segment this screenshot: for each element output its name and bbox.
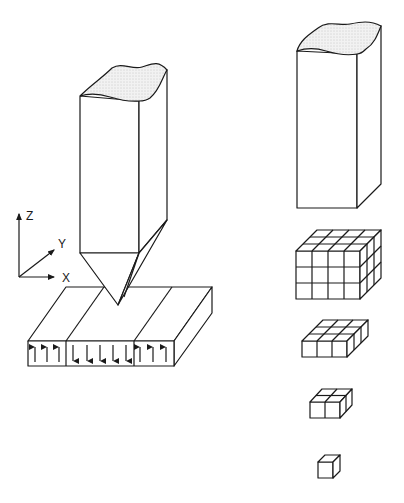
x-axis-label: X — [62, 271, 70, 285]
block-3x3x1-front — [302, 341, 347, 357]
probe-front-face — [80, 96, 139, 253]
z-axis-label: Z — [26, 209, 33, 223]
block-1x1x1 — [318, 455, 340, 478]
coordinate-axes: Z Y X — [19, 209, 70, 285]
slab-front-face — [28, 341, 174, 366]
probe-pillar — [80, 64, 167, 305]
column-front-face — [297, 51, 357, 208]
y-axis-label: Y — [58, 237, 66, 251]
material-column — [297, 22, 381, 208]
block-3x3x1 — [302, 320, 368, 357]
block-2x2x1 — [310, 389, 352, 418]
diagram-canvas: Z Y X — [0, 0, 404, 503]
block-4x3x3 — [296, 230, 381, 299]
block-1x1x1-front — [318, 462, 333, 478]
y-axis-arrow — [19, 250, 54, 277]
